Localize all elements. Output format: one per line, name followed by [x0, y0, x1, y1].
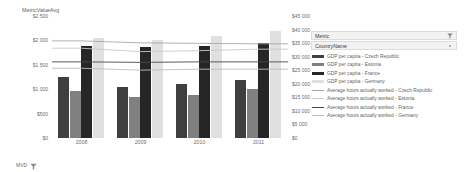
legend-item-label: Average hours actually worked - Estonia	[327, 96, 414, 101]
legend-header-metric-label: Metric	[315, 33, 446, 39]
legend-item[interactable]: Average hours actually worked - Czech Re…	[311, 86, 457, 95]
legend-swatch-bar-icon	[312, 72, 324, 75]
bottom-filter-control[interactable]: MVD	[16, 156, 37, 172]
x-axis-tick: 2008	[76, 139, 88, 145]
legend-header-metric[interactable]: Metric	[311, 31, 457, 40]
line-series[interactable]	[52, 41, 288, 44]
x-axis-tick: 2010	[194, 139, 206, 145]
legend-swatch-line-icon	[312, 98, 324, 99]
line-layer	[52, 16, 288, 138]
legend-header-country-label: CountryName	[315, 43, 446, 49]
legend-item-label: Average hours actually worked - Czech Re…	[327, 88, 432, 93]
plot-area	[52, 16, 288, 138]
right-axis-tick: $25 000	[292, 67, 310, 73]
legend-item-label: GDP per capita - Estonia	[327, 62, 381, 67]
legend-item-label: GDP per capita - Germany	[327, 79, 385, 84]
left-axis-tick: $1 500	[33, 62, 48, 68]
legend-item[interactable]: GDP per capita - Czech Republic	[311, 52, 457, 61]
x-axis: 2008200920102011	[52, 139, 288, 151]
legend-item[interactable]: Average hours actually worked - France	[311, 103, 457, 112]
right-axis-tick: $45 000	[292, 13, 310, 19]
legend-swatch-line-icon	[312, 90, 324, 91]
legend-item-label: Average hours actually worked - France	[327, 105, 413, 110]
filter-icon[interactable]	[30, 156, 37, 172]
filter-icon[interactable]	[446, 32, 453, 39]
legend-swatch-line-icon	[312, 115, 324, 116]
legend-item[interactable]: Average hours actually worked - Estonia	[311, 95, 457, 104]
legend-item[interactable]: GDP per capita - Estonia	[311, 61, 457, 70]
line-series[interactable]	[52, 68, 288, 70]
right-axis-tick: $20 000	[292, 81, 310, 87]
legend-item[interactable]: Average hours actually worked - Germany	[311, 112, 457, 121]
right-axis-tick: $15 000	[292, 94, 310, 100]
legend-item[interactable]: GDP per capita - France	[311, 69, 457, 78]
legend-item-list: GDP per capita - Czech RepublicGDP per c…	[311, 52, 457, 120]
legend-item-label: GDP per capita - France	[327, 71, 380, 76]
bottom-filter-label: MVD	[16, 162, 27, 168]
right-axis-tick: $5 000	[292, 121, 307, 127]
right-axis-tick: $0	[292, 135, 298, 141]
left-axis: $2 500$2 000$1 500$1 000$500$0	[10, 16, 50, 138]
legend-swatch-bar-icon	[312, 63, 324, 66]
left-axis-tick: $2 500	[33, 13, 48, 19]
legend-swatch-line-icon	[312, 107, 324, 108]
legend-item-label: Average hours actually worked - Germany	[327, 113, 418, 118]
right-axis-tick: $35 000	[292, 40, 310, 46]
left-axis-tick: $1 000	[33, 86, 48, 92]
x-axis-tick: 2011	[253, 139, 264, 145]
legend-swatch-bar-icon	[312, 80, 324, 83]
left-axis-tick: $500	[37, 111, 48, 117]
legend-item-label: GDP per capita - Czech Republic	[327, 54, 399, 59]
line-series[interactable]	[52, 48, 288, 51]
left-axis-tick: $2 000	[33, 37, 48, 43]
legend-item[interactable]: GDP per capita - Germany	[311, 78, 457, 87]
dropdown-dot-icon[interactable]	[446, 42, 453, 49]
legend-panel: Metric CountryName GDP per capita - Czec…	[311, 31, 457, 120]
legend-header-country[interactable]: CountryName	[311, 41, 457, 50]
right-axis-tick: $30 000	[292, 54, 310, 60]
right-axis-tick: $10 000	[292, 108, 310, 114]
right-axis-tick: $40 000	[292, 27, 310, 33]
chart-app: MetricValueAvg $2 500$2 000$1 500$1 000$…	[0, 0, 465, 172]
left-axis-tick: $0	[42, 135, 48, 141]
x-axis-tick: 2009	[135, 139, 147, 145]
legend-swatch-bar-icon	[312, 55, 324, 58]
